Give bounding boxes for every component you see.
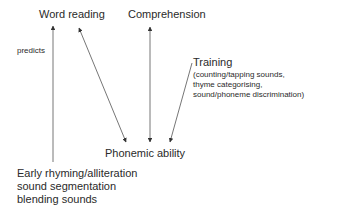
training-detail-line: (counting/tapping sounds, [193, 70, 304, 80]
node-phonemic-ability: Phonemic ability [105, 147, 185, 159]
early-skill-line: sound segmentation [17, 180, 137, 193]
early-skill-line: Early rhyming/alliteration [17, 167, 137, 180]
node-comprehension: Comprehension [128, 8, 206, 20]
node-word-reading: Word reading [39, 8, 105, 20]
node-training-details: (counting/tapping sounds, thyme categori… [193, 70, 304, 100]
edge-training-phonemic [170, 63, 192, 142]
early-skill-line: blending sounds [17, 193, 137, 206]
node-training: Training [193, 56, 232, 68]
training-detail-line: sound/phoneme discrimination) [193, 90, 304, 100]
training-detail-line: thyme categorising, [193, 80, 304, 90]
edge-label-predicts: predicts [17, 46, 45, 55]
edge-word-reading-phonemic [79, 28, 126, 142]
node-early-skills: Early rhyming/alliteration sound segment… [17, 167, 137, 206]
